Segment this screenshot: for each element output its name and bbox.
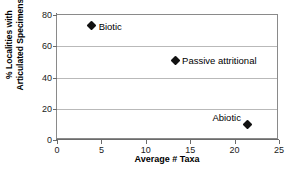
x-tick-mark: [146, 140, 147, 144]
scatter-chart: 0204060800510152025BioticPassive attriti…: [0, 0, 295, 182]
data-point-marker: [87, 21, 97, 31]
x-tick-label: 5: [99, 146, 104, 155]
y-tick-mark: [53, 78, 57, 79]
gridline-horizontal: [57, 78, 277, 79]
y-tick-mark: [53, 109, 57, 110]
data-point-marker: [243, 119, 253, 129]
y-tick-mark: [53, 15, 57, 16]
x-tick-mark: [57, 140, 58, 144]
y-tick-label: 20: [42, 104, 52, 113]
x-tick-label: 20: [230, 146, 240, 155]
data-point-label: Passive attritional: [182, 56, 256, 66]
x-tick-mark: [190, 140, 191, 144]
x-tick-label: 25: [274, 146, 284, 155]
x-tick-mark: [279, 140, 280, 144]
data-point-label: Abiotic: [212, 113, 241, 123]
data-point-marker: [170, 55, 180, 65]
y-tick-label: 80: [42, 11, 52, 20]
x-axis-title: Average # Taxa: [56, 155, 278, 165]
y-axis-title-line2: Articulated Specimens: [15, 0, 26, 105]
x-tick-mark: [235, 140, 236, 144]
gridline-horizontal: [57, 109, 277, 110]
gridline-horizontal: [57, 46, 277, 47]
y-tick-mark: [53, 46, 57, 47]
y-axis-title-line1: % Localities with: [4, 0, 15, 105]
data-point-label: Biotic: [99, 22, 122, 32]
plot-area: 0204060800510152025BioticPassive attriti…: [56, 14, 278, 139]
y-tick-label: 0: [47, 136, 52, 145]
y-tick-label: 40: [42, 73, 52, 82]
y-axis-title: % Localities with Articulated Specimens: [4, 0, 25, 105]
x-tick-label: 0: [54, 146, 59, 155]
x-axis-line: [56, 139, 279, 140]
y-tick-label: 60: [42, 42, 52, 51]
x-tick-mark: [101, 140, 102, 144]
